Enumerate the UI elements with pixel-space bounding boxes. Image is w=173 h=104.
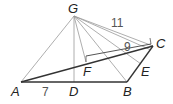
label-C: C: [156, 36, 166, 51]
measure-FC: 9: [124, 40, 131, 54]
measure-GC: 11: [111, 16, 124, 30]
edge-GA: [21, 16, 74, 82]
segment-C-tick: [150, 38, 151, 44]
geometry-diagram: G C E F A D B 7 11 9: [0, 0, 173, 104]
edge-GE: [74, 16, 141, 64]
label-E: E: [141, 64, 150, 79]
measure-AD: 7: [42, 85, 49, 99]
label-G: G: [68, 1, 78, 16]
label-D: D: [69, 84, 78, 99]
segment-FC-parallel: [86, 44, 151, 56]
label-B: B: [123, 84, 132, 99]
label-A: A: [10, 84, 20, 99]
label-F: F: [83, 64, 92, 79]
